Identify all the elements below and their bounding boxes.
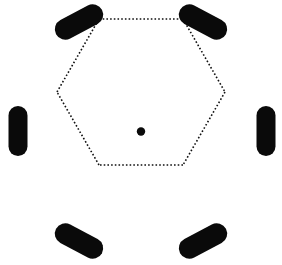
connector-layer bbox=[57, 19, 225, 165]
center-marker-layer: center point bbox=[137, 127, 145, 135]
hexagon-edge bbox=[183, 92, 225, 165]
center-dot-marker: center point bbox=[137, 127, 145, 135]
capsule-right: right capsule bbox=[257, 106, 276, 156]
capsule-bottom-right: bottom right capsule bbox=[175, 220, 231, 263]
capsule-top-left: top left capsule bbox=[51, 1, 107, 44]
capsule-top-right: top right capsule bbox=[175, 1, 231, 44]
hexagon-edge bbox=[57, 92, 99, 165]
capsule-left: left capsule bbox=[9, 106, 28, 156]
figure-canvas: top left capsuletop right capsuleright c… bbox=[0, 0, 282, 265]
capsule-bottom-left: bottom left capsule bbox=[51, 220, 107, 263]
hexagon-arrangement-diagram: top left capsuletop right capsuleright c… bbox=[0, 0, 282, 265]
